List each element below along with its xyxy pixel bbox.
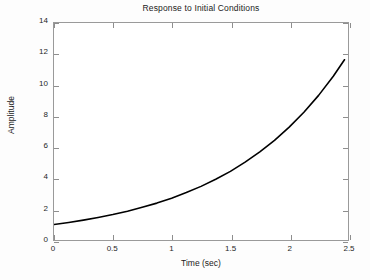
- y-tick-mark: [54, 242, 59, 243]
- y-tick-mark: [54, 23, 59, 24]
- x-tick-mark-top: [113, 23, 114, 28]
- y-tick-mark-right: [343, 117, 348, 118]
- y-axis-title: Amplitude: [6, 85, 16, 145]
- x-tick-mark: [113, 235, 114, 240]
- x-tick-label: 1.5: [225, 244, 236, 253]
- x-tick-label: 0: [51, 244, 55, 253]
- data-curve: [54, 23, 348, 240]
- x-tick-mark: [350, 235, 351, 240]
- y-tick-mark: [54, 211, 59, 212]
- y-tick-mark: [54, 179, 59, 180]
- x-axis-title: Time (sec): [53, 258, 349, 268]
- x-tick-label: 1: [169, 244, 173, 253]
- x-tick-mark: [232, 235, 233, 240]
- x-tick-label: 0.5: [107, 244, 118, 253]
- y-tick-mark-right: [343, 54, 348, 55]
- x-tick-mark-top: [172, 23, 173, 28]
- y-tick-mark: [54, 117, 59, 118]
- x-tick-mark: [172, 235, 173, 240]
- y-tick-mark-right: [343, 242, 348, 243]
- y-tick-mark-right: [343, 148, 348, 149]
- x-tick-mark-top: [291, 23, 292, 28]
- plot-inner: [54, 23, 348, 240]
- chart-title: Response to Initial Conditions: [53, 3, 349, 13]
- x-tick-label: 2: [288, 244, 292, 253]
- x-tick-mark: [291, 235, 292, 240]
- y-tick-mark-right: [343, 179, 348, 180]
- plot-area: [53, 22, 349, 241]
- y-tick-mark: [54, 54, 59, 55]
- x-tick-label: 2.5: [343, 244, 354, 253]
- x-tick-mark-top: [350, 23, 351, 28]
- figure-canvas: Response to Initial Conditions 00.511.52…: [0, 0, 370, 280]
- y-tick-mark-right: [343, 23, 348, 24]
- y-tick-mark-right: [343, 86, 348, 87]
- y-tick-mark: [54, 148, 59, 149]
- x-tick-mark: [54, 235, 55, 240]
- y-tick-mark: [54, 86, 59, 87]
- y-tick-mark-right: [343, 211, 348, 212]
- x-tick-mark-top: [232, 23, 233, 28]
